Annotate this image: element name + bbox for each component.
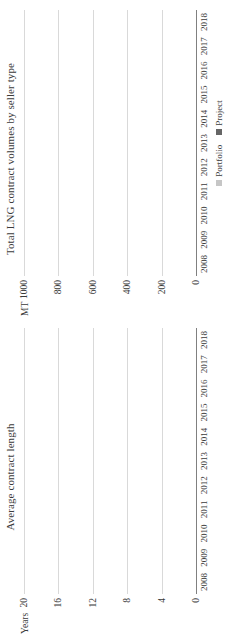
chart-panel-lng-volumes: Total LNG contract volumes by seller typ… (0, 0, 230, 318)
bar-column[interactable]: 2008 (24, 570, 196, 594)
chart-legend-lng-volumes: Portfolio Project (214, 10, 224, 276)
y-axis-tick-label: 800 (53, 280, 63, 294)
x-axis-tick-label: 2013 (199, 134, 209, 152)
y-axis-tick-label: 4 (157, 598, 167, 603)
y-axis-unit-label-mt: MT (20, 302, 30, 316)
y-axis-unit-label-years: Years (20, 613, 30, 634)
legend-swatch-portfolio (216, 180, 222, 186)
bar-column[interactable]: 2013 (24, 131, 196, 155)
chart-title-lng-volumes: Total LNG contract volumes by seller typ… (4, 0, 16, 318)
y-axis-tick-label: 1000 (19, 280, 29, 299)
y-axis-tick-label: 0 (191, 280, 201, 285)
x-axis-tick-label: 2014 (199, 428, 209, 446)
x-axis-tick-label: 2016 (199, 61, 209, 79)
x-axis-line (196, 10, 197, 276)
bar-group: 2008200920102011201220132014201520162017… (24, 328, 196, 594)
bar-column[interactable]: 2010 (24, 203, 196, 227)
y-axis-tick-label: 20 (19, 598, 29, 608)
x-axis-tick-label: 2010 (199, 525, 209, 543)
bar-column[interactable]: 2017 (24, 352, 196, 376)
y-axis-tick-label: 0 (191, 598, 201, 603)
bar-column[interactable]: 2012 (24, 155, 196, 179)
x-axis-tick-label: 2009 (199, 549, 209, 567)
bar-column[interactable]: 2018 (24, 10, 196, 34)
bar-column[interactable]: 2012 (24, 473, 196, 497)
x-axis-tick-label: 2012 (199, 476, 209, 494)
legend-label-portfolio: Portfolio (214, 145, 224, 177)
x-axis-tick-label: 2010 (199, 207, 209, 225)
bar-column[interactable]: 2009 (24, 546, 196, 570)
legend-item-portfolio: Portfolio (214, 145, 224, 186)
legend-label-project: Project (214, 100, 224, 126)
bar-column[interactable]: 2013 (24, 449, 196, 473)
bar-column[interactable]: 2011 (24, 497, 196, 521)
y-axis-tick-label: 12 (88, 598, 98, 608)
x-axis-tick-label: 2018 (199, 13, 209, 31)
bar-column[interactable]: 2015 (24, 83, 196, 107)
x-axis-tick-label: 2017 (199, 355, 209, 373)
bar-column[interactable]: 2011 (24, 179, 196, 203)
x-axis-tick-label: 2015 (199, 86, 209, 104)
x-axis-tick-label: 2011 (199, 183, 209, 201)
bar-column[interactable]: 2014 (24, 107, 196, 131)
y-axis-tick-label: 600 (88, 280, 98, 294)
bar-column[interactable]: 2008 (24, 252, 196, 276)
bar-column[interactable]: 2016 (24, 58, 196, 82)
legend-item-project: Project (214, 100, 224, 135)
legend-swatch-project (216, 129, 222, 135)
bar-column[interactable]: 2017 (24, 34, 196, 58)
bar-column[interactable]: 2018 (24, 328, 196, 352)
x-axis-line (196, 328, 197, 594)
y-axis-tick-label: 16 (53, 598, 63, 608)
figure-canvas: Total LNG contract volumes by seller typ… (0, 0, 230, 636)
x-axis-tick-label: 2011 (199, 501, 209, 519)
bar-column[interactable]: 2015 (24, 401, 196, 425)
bar-column[interactable]: 2016 (24, 376, 196, 400)
bar-column[interactable]: 2010 (24, 521, 196, 545)
bar-column[interactable]: 2009 (24, 228, 196, 252)
bar-group: 2008200920102011201220132014201520162017… (24, 10, 196, 276)
plot-area-contract-length: 0481216202008200920102011201220132014201… (24, 328, 196, 594)
y-axis-tick-label: 400 (122, 280, 132, 294)
x-axis-tick-label: 2012 (199, 158, 209, 176)
x-axis-tick-label: 2014 (199, 110, 209, 128)
y-axis-tick-label: 200 (157, 280, 167, 294)
y-axis-tick-label: 8 (122, 598, 132, 603)
x-axis-tick-label: 2016 (199, 379, 209, 397)
chart-title-contract-length: Average contract length (4, 318, 16, 636)
x-axis-tick-label: 2013 (199, 452, 209, 470)
x-axis-tick-label: 2017 (199, 37, 209, 55)
x-axis-tick-label: 2018 (199, 331, 209, 349)
bar-column[interactable]: 2014 (24, 425, 196, 449)
x-axis-tick-label: 2008 (199, 255, 209, 273)
plot-area-lng-volumes: 0200400600800100020082009201020112012201… (24, 10, 196, 276)
x-axis-tick-label: 2009 (199, 231, 209, 249)
chart-panel-contract-length: Average contract length Years 0481216202… (0, 318, 230, 636)
x-axis-tick-label: 2008 (199, 573, 209, 591)
x-axis-tick-label: 2015 (199, 404, 209, 422)
